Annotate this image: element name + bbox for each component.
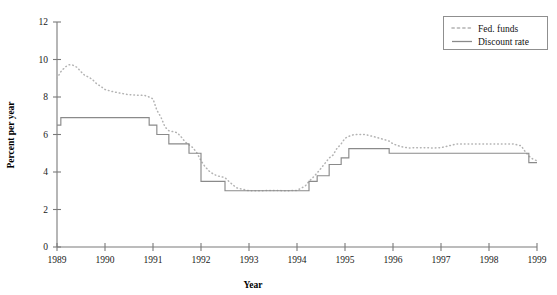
y-tick-label: 10	[39, 55, 49, 65]
x-tick-label: 1994	[288, 255, 307, 265]
x-tick-label: 1998	[480, 255, 499, 265]
x-axis-tick-labels: 1989199019911992199319941995199619971998…	[48, 255, 547, 265]
legend-label-discount-rate: Discount rate	[478, 37, 529, 47]
x-tick-label: 1991	[144, 255, 163, 265]
y-tick-label: 8	[43, 92, 48, 102]
x-tick-label: 1997	[432, 255, 451, 265]
plot-area: 024681012 198919901991199219931994199519…	[39, 17, 547, 265]
y-tick-label: 2	[43, 205, 48, 215]
series-line-fed-funds	[57, 65, 537, 191]
series-line-discount-rate	[57, 118, 537, 191]
y-axis-title-group: Percent per year	[6, 101, 16, 169]
y-tick-label: 0	[43, 242, 48, 252]
y-axis-tick-labels: 024681012	[39, 17, 49, 252]
line-chart: 024681012 198919901991199219931994199519…	[0, 0, 557, 295]
y-tick-label: 4	[43, 167, 48, 177]
y-tick-label: 6	[43, 130, 48, 140]
x-tick-label: 1989	[48, 255, 67, 265]
x-tick-label: 1992	[192, 255, 211, 265]
legend: Fed. funds Discount rate	[444, 17, 548, 50]
x-tick-label: 1999	[528, 255, 547, 265]
x-tick-label: 1993	[240, 255, 259, 265]
x-tick-label: 1996	[384, 255, 403, 265]
x-tick-label: 1995	[336, 255, 355, 265]
chart-svg: 024681012 198919901991199219931994199519…	[0, 0, 557, 295]
x-axis-title: Year	[244, 280, 264, 290]
x-tick-label: 1990	[96, 255, 115, 265]
y-tick-label: 12	[39, 17, 49, 27]
legend-label-fed-funds: Fed. funds	[478, 24, 518, 34]
y-axis-title: Percent per year	[6, 101, 16, 169]
